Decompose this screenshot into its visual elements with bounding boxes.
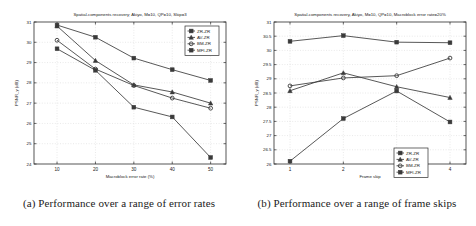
figure-row: Spatial-components recovery; Akiyo, M=10… — [0, 0, 476, 226]
x-tick-label: 30 — [131, 167, 137, 172]
x-axis-label: Macroblock error rate (%) — [106, 174, 155, 179]
x-tick-label: 4 — [449, 167, 452, 172]
data-point-marker — [341, 34, 345, 38]
legend-label-bm-zr: BM-ZR — [406, 163, 420, 168]
x-tick-label: 1 — [289, 167, 292, 172]
y-tick-label: 27 — [27, 101, 32, 106]
legend-label-zr-zr: ZR-ZR — [406, 151, 419, 156]
legend-label-zr-zr: ZR-ZR — [197, 29, 210, 34]
data-point-marker — [288, 159, 292, 163]
data-point-marker — [132, 105, 136, 109]
data-point-marker — [341, 71, 345, 75]
data-point-marker — [94, 68, 98, 72]
chart-panel-b: Spatial-components recovery, Akiyo, M=10… — [238, 0, 476, 226]
y-tick-label: 26 — [27, 121, 32, 126]
data-point-marker — [189, 29, 193, 33]
x-axis-label: Frame skip — [359, 174, 381, 179]
y-tick-label: 27 — [267, 133, 272, 138]
data-point-marker — [209, 79, 213, 83]
y-tick-label: 30 — [27, 40, 32, 45]
legend-label-av-zr: AV-ZR — [197, 35, 210, 40]
data-point-marker — [395, 40, 399, 44]
y-tick-label: 29 — [267, 76, 272, 81]
line-chart-b: Spatial-components recovery, Akiyo, M=10… — [238, 0, 476, 196]
chart-title: Spatial-components recovery, Akiyo, M=10… — [294, 12, 446, 17]
series-line-bm-zr — [290, 58, 450, 86]
y-axis-label: PSNR_y (dB) — [254, 80, 259, 106]
data-point-marker — [209, 156, 213, 160]
y-tick-label: 29 — [27, 60, 32, 65]
y-tick-label: 31 — [27, 20, 32, 25]
y-tick-label: 28 — [267, 105, 272, 110]
legend-label-mfi-zr: MFI-ZR — [406, 170, 421, 175]
legend-label-mfi-zr: MFI-ZR — [197, 48, 212, 53]
data-point-marker — [170, 68, 174, 72]
y-tick-label: 30 — [267, 48, 272, 53]
x-tick-label: 10 — [54, 167, 60, 172]
y-axis-label: PSNR_y (dB) — [14, 80, 19, 106]
x-tick-label: 20 — [93, 167, 99, 172]
data-point-marker — [55, 47, 59, 51]
data-point-marker — [170, 115, 174, 119]
caption-b: (b) Performance over a range of frame sk… — [238, 196, 476, 210]
caption-a: (a) Performance over a range of error ra… — [0, 196, 238, 210]
y-tick-label: 28 — [27, 80, 32, 85]
plot-area-b: Spatial-components recovery, Akiyo, M=10… — [238, 0, 476, 196]
data-point-marker — [395, 89, 399, 93]
data-point-marker — [448, 120, 452, 124]
data-point-marker — [341, 117, 345, 121]
y-tick-label: 27.5 — [263, 119, 272, 124]
data-point-marker — [132, 56, 136, 60]
y-tick-label: 26 — [267, 162, 272, 167]
legend-label-av-zr: AV-ZR — [406, 157, 419, 162]
y-tick-label: 31 — [267, 20, 272, 25]
x-tick-label: 50 — [208, 167, 214, 172]
data-point-marker — [398, 170, 402, 174]
y-tick-label: 30.5 — [263, 34, 272, 39]
data-point-marker — [189, 48, 193, 52]
series-markers-av-zr — [288, 71, 452, 100]
data-point-marker — [288, 39, 292, 43]
x-tick-label: 40 — [170, 167, 176, 172]
y-tick-label: 26.5 — [263, 147, 272, 152]
data-point-marker — [94, 35, 98, 39]
legend-label-bm-zr: BM-ZR — [197, 41, 211, 46]
series-line-zr-zr — [290, 36, 450, 43]
data-point-marker — [448, 41, 452, 45]
y-tick-label: 28.5 — [263, 91, 272, 96]
y-tick-label: 25 — [27, 141, 32, 146]
y-tick-label: 29.5 — [263, 62, 272, 67]
plot-area-a: Spatial-components recovery; Akiyo, M=10… — [0, 0, 238, 196]
chart-panel-a: Spatial-components recovery; Akiyo, M=10… — [0, 0, 238, 226]
line-chart-a: Spatial-components recovery; Akiyo, M=10… — [0, 0, 238, 196]
y-tick-label: 24 — [27, 162, 32, 167]
chart-title: Spatial-components recovery; Akiyo, M=10… — [73, 12, 187, 17]
data-point-marker — [398, 151, 402, 155]
x-tick-label: 2 — [342, 167, 345, 172]
